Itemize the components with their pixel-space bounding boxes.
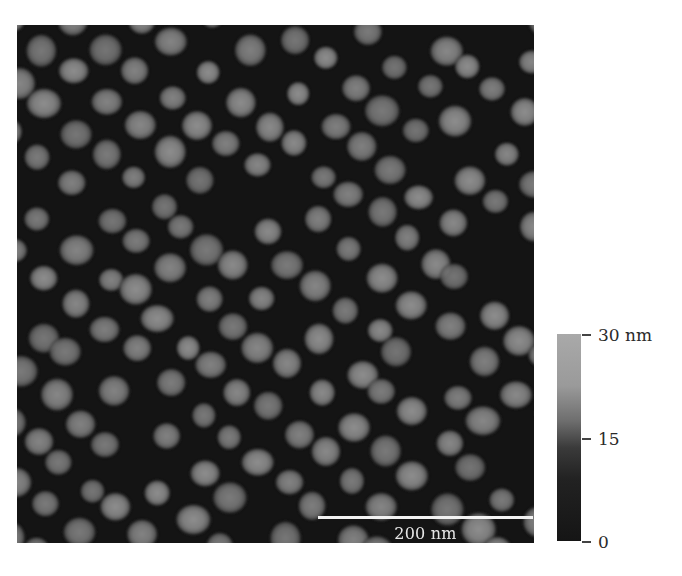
scale-bar bbox=[318, 516, 533, 519]
colorbar-label-mid: 15 bbox=[598, 431, 620, 448]
colorbar-tick-mid bbox=[582, 438, 591, 440]
colorbar-tick-bottom bbox=[582, 541, 591, 543]
nanoparticle-field bbox=[17, 25, 534, 543]
scale-bar-label: 200 nm bbox=[318, 524, 533, 543]
height-colorbar bbox=[557, 334, 581, 541]
colorbar-label-min: 0 bbox=[598, 534, 609, 551]
colorbar-label-max: 30 nm bbox=[598, 327, 652, 344]
afm-height-image: 200 nm bbox=[17, 25, 534, 543]
colorbar-tick-top bbox=[582, 334, 591, 336]
